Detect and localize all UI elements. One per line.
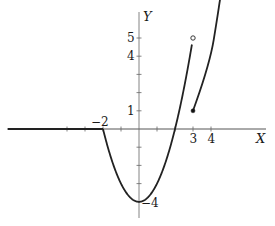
curves [8, 0, 220, 202]
y-tick-label: 1 [127, 104, 135, 118]
right-branch-segment [193, 0, 220, 111]
y-axis-label: Y [143, 9, 153, 24]
tick-labels: −234541−4 [91, 31, 216, 210]
x-tick-label: 4 [208, 132, 216, 146]
y-tick-label: −4 [141, 196, 159, 210]
x-tick-label: −2 [91, 115, 109, 129]
y-tick-label: 5 [127, 31, 135, 45]
x-tick-label: 3 [190, 132, 198, 146]
closed-endpoint [191, 109, 195, 113]
function-graph: −234541−4 X Y [0, 0, 275, 226]
x-axis-label: X [255, 131, 266, 146]
open-endpoint [191, 36, 195, 40]
y-tick-label: 4 [127, 49, 135, 63]
parabola-segment [103, 44, 192, 201]
axes [10, 12, 266, 218]
